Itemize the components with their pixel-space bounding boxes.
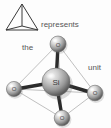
represents-label: represents [41, 21, 79, 29]
tetrahedron-wireframe-icon [2, 1, 42, 35]
sio4-ball-and-stick-model: Si O O O O [0, 33, 111, 128]
atom-o-right-label: O [93, 90, 98, 96]
atom-o-left: O [6, 81, 23, 98]
atom-o-right: O [87, 85, 104, 103]
silica-tetrahedron-figure: represents the unit [0, 0, 111, 128]
atom-si-label: Si [52, 78, 59, 87]
atom-o-top-label: O [56, 42, 61, 48]
atom-o-top: O [50, 36, 68, 54]
atom-o-bottom-label: O [60, 115, 65, 121]
atom-o-left-label: O [12, 86, 17, 92]
atom-si: Si [42, 68, 73, 100]
